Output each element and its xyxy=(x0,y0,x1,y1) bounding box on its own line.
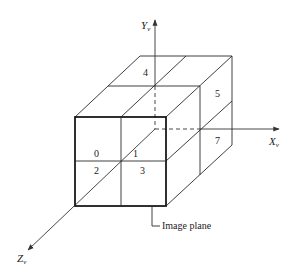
octant-label-7: 7 xyxy=(215,135,220,146)
octree-diagram: Image plane 4 5 7 0 1 2 3 Yv Xv Zv xyxy=(0,0,297,275)
octant-label-2: 2 xyxy=(94,165,99,176)
octant-label-3: 3 xyxy=(140,165,145,176)
octant-label-5: 5 xyxy=(215,88,220,99)
octant-label-1: 1 xyxy=(133,148,138,159)
z-axis-label: Zv xyxy=(17,252,27,266)
image-plane-callout-line xyxy=(152,206,160,226)
image-plane-label: Image plane xyxy=(162,220,212,231)
octant-label-0: 0 xyxy=(94,148,99,159)
x-axis-label: Xv xyxy=(268,135,280,149)
octant-label-4: 4 xyxy=(143,67,148,78)
y-axis-label: Yv xyxy=(141,19,151,33)
right-mid-height xyxy=(166,101,232,161)
